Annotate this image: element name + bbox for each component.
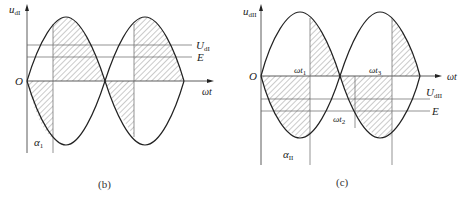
E-label-c: E (431, 105, 439, 117)
hatched-region-b2 (105, 17, 184, 135)
x-label-c: ωt (447, 71, 457, 82)
y-axis-arrow-icon (25, 4, 29, 11)
origin-label-b: O (15, 75, 23, 87)
y-axis-arrow-icon (259, 4, 263, 11)
udII-label: UdII (426, 86, 443, 100)
y-label-c: udII (243, 5, 257, 19)
hatched-region-b1 (27, 17, 105, 138)
caption-b: (b) (98, 178, 111, 191)
hatched-region-c2 (340, 18, 420, 138)
figure-b: udI O ωt UdI E α1 (b) (9, 3, 214, 191)
alphaII-label: αII (283, 148, 294, 162)
hatched-region-c1 (261, 18, 340, 137)
E-label-b: E (196, 51, 204, 63)
t2-label: ωt2 (333, 114, 346, 126)
x-label-b: ωt (202, 86, 212, 97)
origin-label-c: O (249, 70, 257, 82)
caption-c: (c) (336, 176, 349, 189)
t1-label: ωt1 (294, 65, 307, 77)
alpha1-label: α1 (34, 136, 44, 150)
figure-c: udII O ωt ωt1 ωt3 ωt2 UdII E αII (c) (243, 4, 457, 189)
x-axis-arrow-icon (207, 79, 214, 83)
t3-label: ωt3 (369, 65, 382, 77)
diagram-canvas: udI O ωt UdI E α1 (b) (0, 0, 462, 199)
y-label-b: udI (9, 3, 21, 17)
x-axis-arrow-icon (435, 74, 442, 78)
